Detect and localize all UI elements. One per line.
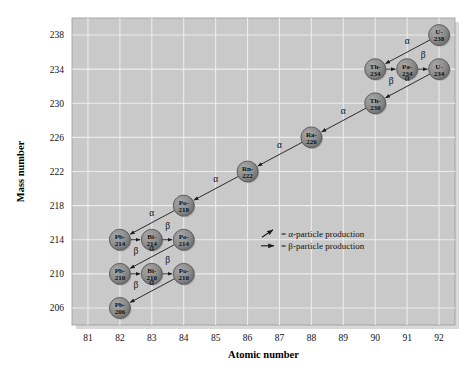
svg-text:222: 222: [242, 172, 253, 180]
x-axis-title: Atomic number: [228, 349, 299, 360]
y-tick-label: 226: [50, 133, 65, 143]
y-axis-title: Mass number: [15, 140, 26, 202]
svg-text:206: 206: [115, 308, 126, 316]
decay-label-alpha: α: [149, 277, 154, 287]
svg-text:210: 210: [115, 274, 126, 282]
x-tick-label: 89: [339, 333, 349, 343]
decay-label-alpha: α: [149, 243, 154, 253]
x-tick-label: 88: [307, 333, 317, 343]
svg-text:218: 218: [178, 206, 189, 214]
svg-text:230: 230: [370, 104, 381, 112]
decay-label-alpha: α: [405, 36, 410, 46]
svg-text:214: 214: [178, 240, 189, 248]
y-tick-label: 210: [50, 269, 65, 279]
decay-label-alpha: α: [405, 73, 410, 83]
decay-label-beta: β: [165, 255, 170, 265]
svg-text:214: 214: [115, 240, 126, 248]
x-tick-label: 91: [402, 333, 412, 343]
y-tick-label: 218: [50, 201, 65, 211]
chart-canvas: U-238Th-234Pa-234U-234Th-230Ra-226Rn-222…: [0, 0, 473, 376]
x-tick-label: 90: [370, 333, 380, 343]
x-tick-label: 81: [83, 333, 93, 343]
svg-text:234: 234: [434, 70, 445, 78]
x-tick-label: 92: [434, 333, 444, 343]
x-tick-label: 85: [211, 333, 221, 343]
decay-label-alpha: α: [277, 140, 282, 150]
decay-label-beta: β: [389, 76, 394, 86]
svg-text:226: 226: [306, 138, 317, 146]
y-tick-label: 222: [50, 167, 65, 177]
svg-text:234: 234: [370, 70, 381, 78]
decay-label-alpha: α: [149, 208, 154, 218]
y-tick-label: 234: [50, 65, 65, 75]
legend-beta-text: = β-particle production: [281, 241, 365, 251]
decay-label-beta: β: [165, 221, 170, 231]
y-tick-label: 206: [50, 303, 65, 313]
svg-text:210: 210: [178, 274, 189, 282]
decay-label-beta: β: [133, 246, 138, 256]
decay-chain-chart: U-238Th-234Pa-234U-234Th-230Ra-226Rn-222…: [0, 0, 473, 376]
x-tick-label: 87: [275, 333, 285, 343]
x-tick-label: 82: [115, 333, 125, 343]
x-tick-label: 86: [243, 333, 253, 343]
decay-label-beta: β: [133, 280, 138, 290]
y-tick-label: 214: [50, 235, 65, 245]
y-tick-label: 230: [50, 99, 65, 109]
x-tick-label: 84: [179, 333, 189, 343]
decay-label-alpha: α: [213, 174, 218, 184]
decay-label-beta: β: [421, 50, 426, 60]
legend-alpha-text: = α-particle production: [281, 229, 365, 239]
x-tick-label: 83: [147, 333, 157, 343]
y-tick-label: 238: [50, 30, 65, 40]
svg-text:238: 238: [434, 35, 445, 43]
decay-label-alpha: α: [341, 106, 346, 116]
